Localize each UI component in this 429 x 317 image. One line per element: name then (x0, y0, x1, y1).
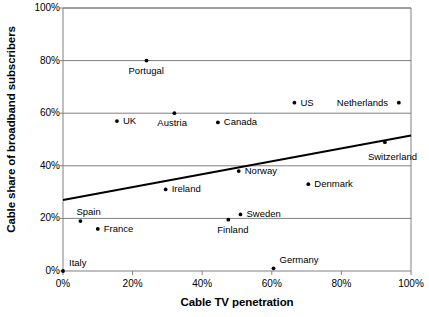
scatter-chart: Cable share of broadband subscribers 0%2… (0, 0, 429, 317)
x-axis-tick-label: 40% (177, 278, 227, 289)
x-axis-tick-label: 0% (38, 278, 88, 289)
x-axis-tick-label: 60% (247, 278, 297, 289)
x-axis-tick-labels: 0%20%40%60%80%100% (0, 0, 429, 317)
x-axis-tick-label: 20% (108, 278, 158, 289)
x-axis-title: Cable TV penetration (63, 296, 411, 308)
x-axis-tick-label: 80% (316, 278, 366, 289)
x-axis-tick-label: 100% (386, 278, 429, 289)
